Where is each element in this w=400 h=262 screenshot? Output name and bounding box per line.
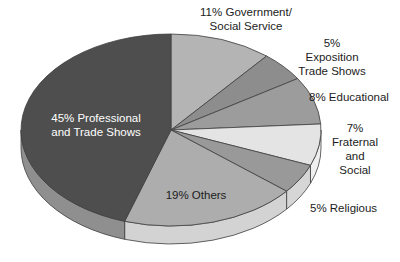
slice-callout-fraternal-and-social: 7% Fraternal and Social [332,121,378,177]
slice-callout-others: 19% Others [166,188,227,202]
pie-chart-figure: 11% Government/ Social Service5% Exposit… [0,0,400,262]
slice-callout-professional-and-trade-shows: 45% Professional and Trade Shows [51,111,141,139]
slice-callout-government-social-service: 11% Government/ Social Service [200,5,292,33]
slice-callout-religious: 5% Religious [310,201,377,215]
slice-callout-exposition-trade-shows: 5% Exposition Trade Shows [298,36,366,78]
slice-callout-educational: 8% Educational [309,90,389,104]
